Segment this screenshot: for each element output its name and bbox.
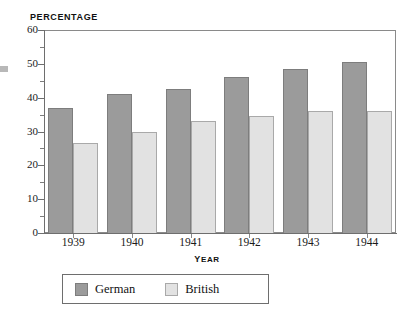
y-tick-label-wrap: 0 [6, 233, 38, 234]
x-axis-title: Year [0, 251, 414, 265]
bar-british-1944 [367, 111, 392, 233]
legend-swatch-british-icon [165, 283, 178, 296]
legend-item-german[interactable]: German [75, 275, 135, 303]
y-tick-label-wrap: 20 [6, 165, 38, 166]
legend-item-british[interactable]: British [165, 275, 219, 303]
bar-german-1942 [224, 77, 249, 233]
bar-german-1943 [283, 69, 308, 233]
bar-british-1939 [73, 143, 98, 233]
y-tick-label: 0 [12, 227, 38, 238]
bar-german-1944 [342, 62, 367, 233]
y-tick [38, 233, 44, 234]
bar-british-1940 [132, 132, 157, 234]
chart-figure: Percentage 0102030405060 193919401941194… [0, 0, 414, 312]
bar-german-1939 [48, 108, 73, 233]
x-tick-label: 1941 [161, 236, 221, 249]
y-tick-label: 10 [12, 193, 38, 204]
bar-german-1940 [107, 94, 132, 233]
x-tick-label: 1944 [337, 236, 397, 249]
x-tick-label: 1943 [278, 236, 338, 249]
bar-british-1943 [308, 111, 333, 233]
y-tick-label: 50 [12, 58, 38, 69]
y-tick-label-wrap: 30 [6, 132, 38, 133]
y-tick-label-wrap: 10 [6, 199, 38, 200]
scan-artifact [0, 66, 8, 72]
y-tick-label: 30 [12, 126, 38, 137]
y-tick-label-wrap: 40 [6, 98, 38, 99]
x-tick-label: 1939 [43, 236, 103, 249]
x-tick-label: 1942 [219, 236, 279, 249]
y-tick-label-wrap: 50 [6, 64, 38, 65]
bars-layer [44, 30, 396, 233]
bar-british-1942 [249, 116, 274, 233]
chart-title: Percentage [30, 8, 98, 23]
y-tick-label: 60 [12, 24, 38, 35]
chart-legend: German British [62, 274, 269, 304]
y-tick-label: 20 [12, 159, 38, 170]
y-tick-label: 40 [12, 92, 38, 103]
bar-british-1941 [191, 121, 216, 233]
x-tick-label: 1940 [102, 236, 162, 249]
bar-german-1941 [166, 89, 191, 233]
legend-swatch-german-icon [75, 283, 88, 296]
legend-label-german: German [95, 282, 135, 297]
y-tick-label-wrap: 60 [6, 30, 38, 31]
x-axis-line [44, 233, 397, 234]
legend-label-british: British [185, 282, 219, 297]
